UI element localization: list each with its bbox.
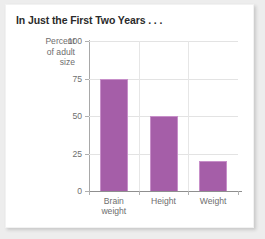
y-tick-mark — [85, 41, 89, 42]
gridline-vertical — [188, 41, 189, 191]
y-tick-mark — [85, 79, 89, 80]
y-tick-label: 25 — [72, 149, 82, 159]
bar-brain-weight — [100, 79, 128, 192]
y-axis-label-line-1: Percent — [8, 36, 75, 47]
x-tick-mark — [89, 191, 90, 195]
x-axis-label-brain-weight: Brainweight — [89, 196, 139, 217]
x-axis-label-weight: Weight — [188, 196, 238, 206]
bar-height — [150, 116, 178, 191]
x-axis-label-line: Brain — [89, 196, 139, 206]
y-tick-label: 0 — [77, 186, 82, 196]
x-tick-mark — [139, 191, 140, 195]
y-tick-label: 75 — [72, 74, 82, 84]
bar-weight — [199, 161, 227, 191]
x-tick-mark — [238, 191, 239, 195]
x-tick-mark — [188, 191, 189, 195]
x-axis-label-height: Height — [139, 196, 189, 206]
chart-card: In Just the First Two Years . . . Percen… — [5, 4, 254, 228]
x-axis-label-line: Height — [139, 196, 189, 206]
y-axis-label-line-2: of adult — [8, 47, 75, 58]
page-background: In Just the First Two Years . . . Percen… — [0, 0, 265, 239]
gridline-vertical — [139, 41, 140, 191]
x-axis-label-line: weight — [89, 206, 139, 216]
y-tick-mark — [85, 154, 89, 155]
gridline-horizontal — [89, 41, 238, 42]
y-tick-label: 50 — [72, 111, 82, 121]
plot-area: 0255075100 — [89, 41, 238, 191]
x-axis-line — [89, 191, 242, 192]
y-tick-mark — [85, 116, 89, 117]
y-axis-label-line-3: size — [8, 57, 75, 68]
y-axis-label: Percent of adult size — [8, 36, 75, 68]
page-title: In Just the First Two Years . . . — [16, 14, 162, 26]
y-tick-label: 100 — [68, 36, 82, 46]
x-axis-label-line: Weight — [188, 196, 238, 206]
